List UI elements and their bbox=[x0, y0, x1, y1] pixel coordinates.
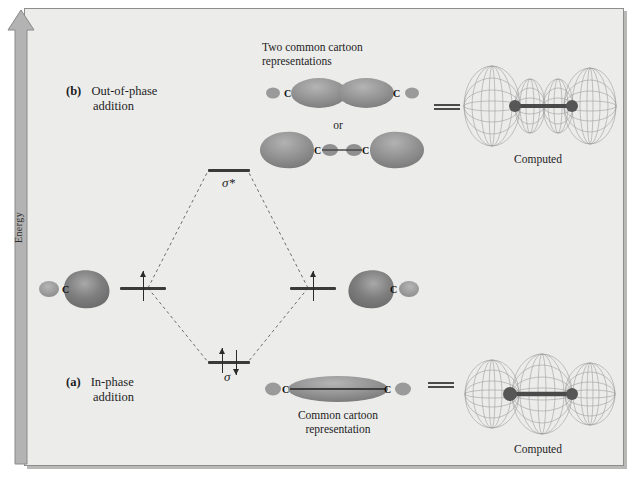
left-sp-hybrid-orbital: C bbox=[38, 258, 122, 320]
computed-bonding-label: Computed bbox=[488, 442, 588, 456]
antibonding-alt-atom-label-left: C bbox=[314, 145, 321, 156]
sigma-electron-down bbox=[236, 350, 237, 375]
bonding-atom-label-left: C bbox=[282, 384, 289, 395]
bonding-cartoon: C C bbox=[262, 374, 414, 404]
antibonding-atom-label-right: C bbox=[393, 88, 400, 99]
antibonding-cartoon-caption: Two common cartoon representations bbox=[262, 40, 442, 68]
molecular-orbital-diagram: Energy (b) Out-of-phase addition (a) In-… bbox=[0, 0, 635, 478]
computed-bonding-orbital bbox=[462, 352, 614, 438]
antibonding-equivalence-mark bbox=[434, 104, 460, 112]
left-atom-label: C bbox=[62, 284, 69, 295]
sigma-electron-up bbox=[222, 348, 223, 373]
antibonding-atom-label-left: C bbox=[284, 88, 291, 99]
bonding-atom-label-right: C bbox=[384, 384, 391, 395]
computed-antibonding-orbital bbox=[462, 58, 614, 154]
left-atomic-electron bbox=[143, 271, 144, 301]
bonding-cartoon-caption: Common cartoon representation bbox=[262, 408, 414, 436]
bonding-equivalence-mark bbox=[428, 382, 454, 390]
antibonding-alt-atom-label-right: C bbox=[362, 145, 369, 156]
antibonding-cartoon-1: C C bbox=[262, 76, 422, 110]
sigma-symbol: σ bbox=[224, 369, 230, 385]
right-atomic-electron bbox=[313, 271, 314, 301]
sigma-star-level bbox=[208, 169, 250, 172]
right-sp-hybrid-orbital: C bbox=[336, 258, 420, 320]
right-atom-label: C bbox=[390, 284, 397, 295]
sigma-level bbox=[208, 361, 250, 364]
antibonding-cartoon-2: C C bbox=[258, 130, 426, 170]
computed-antibonding-label: Computed bbox=[488, 152, 588, 166]
sigma-star-symbol: σ* bbox=[222, 175, 235, 191]
